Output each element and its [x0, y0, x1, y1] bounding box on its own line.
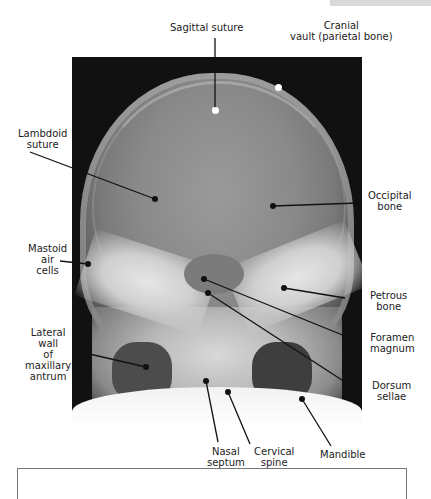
- foramen-dot: [201, 276, 207, 282]
- lateral-wall-dot: [143, 364, 149, 370]
- mandible-dot: [299, 396, 305, 402]
- occipital-dot: [270, 203, 276, 209]
- label-dorsum-sellae: Dorsum sellae: [372, 380, 411, 402]
- skull-xray-image: [72, 57, 362, 428]
- vault-marker: [275, 84, 282, 91]
- label-text: Lambdoid: [18, 128, 67, 139]
- label-lambdoid-suture: Lambdoid suture: [18, 128, 67, 150]
- petrous-dot: [281, 285, 287, 291]
- label-petrous-bone: Petrous bone: [370, 290, 407, 312]
- label-text: bone: [368, 201, 412, 212]
- label-mastoid-air-cells: Mastoid air cells: [28, 243, 67, 276]
- label-text: Dorsum: [372, 380, 411, 391]
- lambdoid-dot: [152, 196, 158, 202]
- label-lateral-wall-maxillary-antrum: Lateral wall of maxillary antrum: [25, 327, 71, 382]
- label-text: wall: [25, 338, 71, 349]
- label-text: Petrous: [370, 290, 407, 301]
- label-text: Lateral: [25, 327, 71, 338]
- label-text: spine: [254, 457, 294, 468]
- sagittal-dot: [212, 107, 218, 113]
- label-text: septum: [207, 457, 245, 468]
- label-text: air: [28, 254, 67, 265]
- label-text: vault (parietal bone): [290, 31, 393, 42]
- label-text: sellae: [372, 391, 411, 402]
- cervical-dot: [225, 389, 231, 395]
- mastoid-dot: [85, 261, 91, 267]
- label-text: Cervical: [254, 446, 294, 457]
- label-text: Nasal: [207, 446, 245, 457]
- dorsum-dot: [205, 290, 211, 296]
- header-tab: [330, 0, 431, 6]
- label-text: suture: [18, 139, 67, 150]
- label-text: Cranial: [290, 20, 393, 31]
- label-text: Mandible: [320, 449, 366, 460]
- label-mandible: Mandible: [320, 449, 366, 460]
- label-text: maxillary: [25, 360, 71, 371]
- label-text: bone: [370, 301, 407, 312]
- label-text: Mastoid: [28, 243, 67, 254]
- nasal-dot: [203, 378, 209, 384]
- label-text: cells: [28, 265, 67, 276]
- caption-box: [17, 468, 407, 499]
- label-text: Foramen: [370, 332, 415, 343]
- label-cranial-vault: Cranial vault (parietal bone): [290, 20, 393, 42]
- lower-white-area: [72, 387, 362, 428]
- label-text: of: [25, 349, 71, 360]
- label-sagittal-suture: Sagittal suture: [170, 22, 243, 33]
- foramen-magnum-region: [184, 254, 244, 294]
- label-occipital-bone: Occipital bone: [368, 190, 412, 212]
- label-text: antrum: [25, 371, 71, 382]
- label-foramen-magnum: Foramen magnum: [370, 332, 415, 354]
- label-text: Occipital: [368, 190, 412, 201]
- label-cervical-spine: Cervical spine: [254, 446, 294, 468]
- label-text: Sagittal suture: [170, 22, 243, 33]
- label-nasal-septum: Nasal septum: [207, 446, 245, 468]
- label-text: magnum: [370, 343, 415, 354]
